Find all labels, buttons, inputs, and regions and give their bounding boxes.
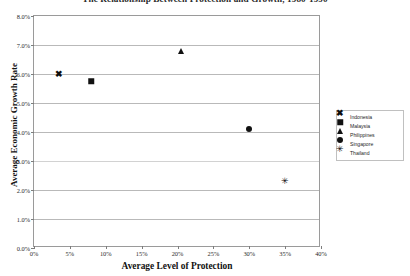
x-tick-mark (70, 246, 71, 249)
y-tick-label: 2.0% (0, 187, 30, 194)
legend-item-malaysia[interactable]: Malaysia (340, 122, 401, 131)
x-tick-label: 0% (30, 250, 39, 257)
y-tick-mark (31, 161, 34, 162)
gridline (34, 45, 319, 46)
gridline (34, 103, 319, 104)
legend-item-indonesia[interactable]: ✖Indonesia (340, 113, 401, 122)
legend-label: Indonesia (350, 113, 372, 122)
x-tick-mark (213, 246, 214, 249)
y-tick-mark (31, 132, 34, 133)
x-tick-mark (178, 246, 179, 249)
x-tick-label: 40% (315, 250, 327, 257)
y-tick-label: 7.0% (0, 42, 30, 49)
x-tick-mark (249, 246, 250, 249)
y-tick-label: 8.0% (0, 13, 30, 20)
data-point-singapore (246, 126, 252, 132)
y-tick-mark (31, 103, 34, 104)
x-tick-mark (321, 246, 322, 249)
x-tick-label: 30% (243, 250, 255, 257)
y-tick-label: 6.0% (0, 71, 30, 78)
x-tick-label: 35% (279, 250, 291, 257)
y-axis-title: Average Economic Growth Rate (9, 45, 19, 205)
x-tick-label: 20% (172, 250, 184, 257)
legend-item-thailand[interactable]: ✳Thailand (340, 149, 401, 158)
y-tick-label: 3.0% (0, 158, 30, 165)
x-tick-mark (285, 246, 286, 249)
data-point-philippines (178, 48, 184, 54)
x-tick-label: 10% (100, 250, 112, 257)
y-tick-mark (31, 190, 34, 191)
y-tick-mark (31, 16, 34, 17)
x-tick-label: 25% (208, 250, 220, 257)
y-tick-mark (31, 219, 34, 220)
chart-title: The Relationship Between Protection and … (0, 0, 410, 5)
x-tick-mark (142, 246, 143, 249)
chart-container: The Relationship Between Protection and … (0, 0, 410, 276)
y-tick-label: 0.0% (0, 245, 30, 252)
y-tick-label: 1.0% (0, 216, 30, 223)
legend-item-singapore[interactable]: Singapore (340, 140, 401, 149)
legend-label: Thailand (350, 149, 370, 158)
x-tick-mark (106, 246, 107, 249)
data-point-thailand: ✳ (281, 177, 290, 186)
gridline (34, 74, 319, 75)
gridline (34, 132, 319, 133)
gridline (34, 190, 319, 191)
legend-label: Philippines (350, 131, 375, 140)
y-tick-mark (31, 45, 34, 46)
x-tick-label: 15% (136, 250, 148, 257)
y-tick-mark (31, 74, 34, 75)
gridline (34, 161, 319, 162)
y-tick-label: 5.0% (0, 100, 30, 107)
data-point-malaysia (89, 79, 95, 85)
legend-item-philippines[interactable]: Philippines (340, 131, 401, 140)
y-tick-label: 4.0% (0, 129, 30, 136)
x-tick-mark (34, 246, 35, 249)
legend: ✖IndonesiaMalaysiaPhilippinesSingapore✳T… (336, 110, 404, 161)
plot-area: 0.0%1.0%2.0%3.0%4.0%5.0%6.0%7.0%8.0% 0%5… (33, 15, 320, 247)
legend-label: Singapore (350, 140, 373, 149)
gridline (34, 219, 319, 220)
legend-label: Malaysia (350, 122, 370, 131)
legend-marker-star-icon: ✳ (340, 149, 350, 158)
x-tick-label: 5% (66, 250, 75, 257)
x-axis-title: Average Level of Protection (33, 261, 321, 271)
data-point-indonesia: ✖ (55, 70, 64, 79)
